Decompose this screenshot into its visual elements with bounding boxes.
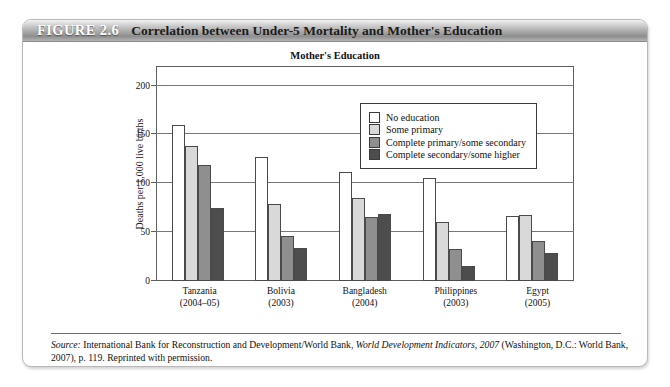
bar-group — [339, 66, 391, 281]
legend-swatch-icon — [369, 137, 380, 148]
figure-title: Correlation between Under-5 Mortality an… — [131, 23, 502, 39]
bar — [255, 157, 268, 281]
legend-item: Complete primary/some secondary — [369, 137, 526, 148]
bar — [545, 253, 558, 281]
bar-group — [172, 66, 224, 281]
figure-container: FIGURE 2.6 Correlation between Under-5 M… — [22, 19, 648, 367]
bar — [378, 214, 391, 281]
x-axis-year: (2004) — [343, 298, 387, 310]
bar — [506, 216, 519, 281]
x-axis-label: Bolivia(2003) — [267, 286, 295, 310]
x-axis-year: (2004–05) — [180, 298, 220, 310]
x-axis-country-name: Bangladesh — [343, 286, 387, 298]
bar — [462, 266, 475, 281]
plot-wrapper: Deaths per 1,000 live births 05010015020… — [156, 66, 574, 281]
bar — [185, 146, 198, 281]
x-axis-country-name: Tanzania — [180, 286, 220, 298]
bar — [352, 198, 365, 281]
bar — [449, 249, 462, 281]
x-axis-year: (2003) — [434, 298, 477, 310]
x-axis-country-name: Bolivia — [267, 286, 295, 298]
bar — [172, 125, 185, 281]
bar — [294, 248, 307, 281]
legend-label: Complete primary/some secondary — [386, 137, 526, 148]
x-axis-label: Philippines(2003) — [434, 286, 477, 310]
legend-label: Complete secondary/some higher — [386, 149, 520, 160]
bar-groups — [156, 66, 574, 281]
legend-swatch-icon — [369, 124, 380, 135]
bar — [519, 215, 532, 281]
y-axis-tick-label: 100 — [136, 178, 150, 188]
chart-title: Mother's Education — [23, 50, 647, 61]
bar — [268, 204, 281, 281]
source-note: Source: International Bank for Reconstru… — [51, 338, 629, 364]
y-axis-tick-label: 0 — [145, 276, 150, 286]
y-axis-tick-label: 150 — [136, 129, 150, 139]
legend-label: Some primary — [386, 124, 443, 135]
bar — [281, 236, 294, 281]
x-axis-country-name: Egypt — [525, 286, 550, 298]
bar — [436, 222, 449, 281]
y-axis-tick-label: 200 — [136, 81, 150, 91]
bar — [532, 241, 545, 281]
bar — [339, 172, 352, 281]
bar-group — [255, 66, 307, 281]
legend-swatch-icon — [369, 149, 380, 160]
source-label: Source: — [51, 339, 81, 350]
x-axis-year: (2005) — [525, 298, 550, 310]
x-axis-label: Egypt(2005) — [525, 286, 550, 310]
source-italic-title: World Development Indicators, 2007 — [356, 339, 499, 350]
figure-number: FIGURE 2.6 — [37, 22, 119, 39]
source-text-part1: International Bank for Reconstruction an… — [81, 339, 356, 350]
x-axis-label: Bangladesh(2004) — [343, 286, 387, 310]
bar — [211, 208, 224, 281]
x-axis-year: (2003) — [267, 298, 295, 310]
bar-group — [506, 66, 558, 281]
legend-item: Complete secondary/some higher — [369, 149, 526, 160]
bar-group — [423, 66, 475, 281]
legend-item: Some primary — [369, 124, 526, 135]
legend-swatch-icon — [369, 112, 380, 123]
bar — [423, 178, 436, 281]
x-axis-labels: Tanzania(2004–05)Bolivia(2003)Bangladesh… — [156, 286, 574, 310]
bar — [365, 217, 378, 282]
legend-label: No education — [386, 112, 440, 123]
chart-legend: No educationSome primaryComplete primary… — [360, 103, 537, 169]
x-axis-country-name: Philippines — [434, 286, 477, 298]
legend-item: No education — [369, 112, 526, 123]
y-axis-tick-label: 50 — [141, 227, 151, 237]
figure-header-bar: FIGURE 2.6 Correlation between Under-5 M… — [23, 20, 647, 42]
source-divider — [51, 333, 621, 334]
bar — [198, 165, 211, 281]
x-axis-label: Tanzania(2004–05) — [180, 286, 220, 310]
